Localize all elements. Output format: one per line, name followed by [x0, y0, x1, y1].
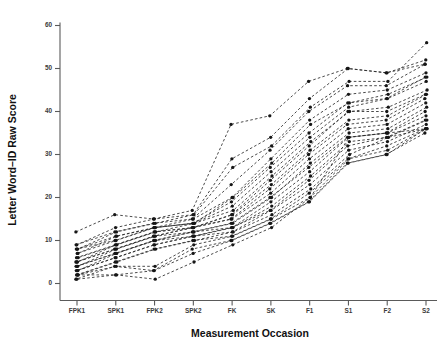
data-point	[231, 243, 234, 246]
data-point	[230, 200, 233, 203]
data-point	[269, 170, 272, 173]
data-point	[74, 243, 77, 246]
data-point	[75, 260, 78, 263]
data-point	[269, 136, 272, 139]
chart-container: 0102030405060 FPK1SPK1FPK2SPK2FKSKF1S1F2…	[0, 0, 446, 344]
data-point	[232, 230, 235, 233]
data-point	[192, 213, 195, 216]
data-point	[347, 93, 350, 96]
data-point	[191, 239, 194, 242]
x-axis-title: Measurement Occasion	[191, 327, 309, 339]
data-point	[153, 243, 156, 246]
data-point	[192, 260, 195, 263]
x-tick-label-spk1: SPK1	[107, 307, 124, 314]
data-point	[230, 222, 233, 225]
x-tick-label-spk2: SPK2	[185, 307, 202, 314]
data-point	[152, 222, 155, 225]
data-point	[385, 123, 388, 126]
data-point	[425, 80, 428, 83]
data-point	[308, 200, 311, 203]
data-point	[269, 179, 272, 182]
data-point	[308, 97, 311, 100]
series-line	[76, 120, 425, 271]
data-point	[115, 252, 118, 255]
y-tick-label: 20	[45, 193, 53, 200]
x-tick-label-fpk1: FPK1	[69, 307, 86, 314]
data-point	[423, 110, 426, 113]
data-point	[153, 230, 156, 233]
data-point	[231, 235, 234, 238]
data-point	[269, 157, 272, 160]
data-point	[425, 127, 428, 130]
data-point	[387, 136, 390, 139]
data-point	[76, 269, 79, 272]
data-point	[230, 157, 233, 160]
data-point	[113, 213, 116, 216]
data-point	[385, 110, 388, 113]
data-point	[152, 247, 155, 250]
y-tick-label: 10	[45, 236, 53, 243]
data-point	[231, 204, 234, 207]
data-point	[348, 140, 351, 143]
y-axis: 0102030405060	[45, 21, 60, 300]
data-point	[386, 93, 389, 96]
data-point	[386, 131, 389, 134]
data-point	[153, 265, 156, 268]
data-point	[270, 144, 273, 147]
data-point	[192, 217, 195, 220]
data-point	[230, 239, 233, 242]
data-point	[192, 243, 195, 246]
data-point	[75, 256, 78, 259]
data-point	[75, 247, 78, 250]
data-point	[346, 144, 349, 147]
data-point	[269, 166, 272, 169]
data-point	[347, 136, 350, 139]
data-point-markers	[74, 41, 429, 281]
data-point	[424, 75, 427, 78]
y-tick-label: 30	[45, 150, 53, 157]
data-point	[230, 217, 233, 220]
data-point	[115, 247, 118, 250]
x-tick-label-fk: FK	[228, 307, 237, 314]
data-point	[424, 114, 427, 117]
x-tick-label-s1: S1	[345, 307, 353, 314]
data-point	[115, 235, 118, 238]
data-point	[154, 235, 157, 238]
data-point	[425, 93, 428, 96]
data-point	[308, 157, 311, 160]
data-point	[270, 213, 273, 216]
data-point	[231, 196, 234, 199]
series-line	[78, 90, 427, 258]
data-point	[424, 58, 427, 61]
data-point	[347, 80, 350, 83]
data-point	[270, 183, 273, 186]
data-point	[346, 110, 349, 113]
data-point	[386, 88, 389, 91]
x-tick-label-sk: SK	[266, 307, 275, 314]
data-point	[307, 80, 310, 83]
data-point	[115, 243, 118, 246]
data-point	[270, 226, 273, 229]
x-axis: FPK1SPK1FPK2SPK2FKSKF1S1F2S2	[60, 301, 437, 315]
data-point	[115, 273, 118, 276]
data-point	[113, 265, 116, 268]
series-line	[77, 124, 426, 270]
data-point	[269, 192, 272, 195]
data-point	[347, 131, 350, 134]
data-point	[309, 196, 312, 199]
data-point	[193, 222, 196, 225]
data-point	[269, 200, 272, 203]
data-point	[309, 123, 312, 126]
data-point	[307, 153, 310, 156]
series-line	[78, 120, 427, 271]
data-point	[308, 149, 311, 152]
data-point	[191, 209, 194, 212]
x-tick-label-fpk2: FPK2	[146, 307, 163, 314]
data-point	[268, 187, 271, 190]
data-point	[424, 118, 427, 121]
data-point	[387, 106, 390, 109]
data-point	[114, 239, 117, 242]
y-tick-label: 60	[45, 21, 53, 28]
data-point	[423, 97, 426, 100]
data-point	[385, 144, 388, 147]
